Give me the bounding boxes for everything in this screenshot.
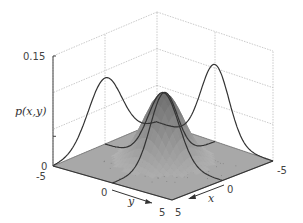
- sample-point: [235, 165, 236, 166]
- sample-point: [152, 182, 153, 183]
- sample-point: [176, 177, 177, 178]
- sample-point: [104, 161, 105, 162]
- y-arrowhead-icon: [145, 199, 152, 204]
- sample-point: [218, 161, 219, 162]
- x-arrowhead-icon: [188, 194, 196, 199]
- x-tick-max: 5: [175, 207, 181, 218]
- sample-point: [175, 182, 176, 183]
- sample-point: [111, 163, 112, 164]
- z-axis-label: p(x,y): [15, 105, 47, 118]
- sample-point: [164, 176, 165, 177]
- sample-point: [220, 163, 221, 164]
- sample-point: [207, 178, 208, 179]
- y-tick-mid: 0: [101, 187, 107, 198]
- sample-point: [223, 163, 224, 164]
- sample-point: [208, 171, 209, 172]
- sample-point: [216, 166, 217, 167]
- grid-line-right-wall: [157, 12, 273, 51]
- y-tick-max: 5: [159, 207, 165, 218]
- surface-plot: 0.15 0 p(x,y) -5 0 5 y -5 0 5 x: [0, 0, 303, 223]
- sample-point: [110, 168, 111, 169]
- z-tick-max: 0.15: [23, 51, 45, 62]
- x-tick-mid: 0: [227, 184, 233, 195]
- x-axis-label: x: [208, 192, 215, 205]
- sample-point: [187, 177, 188, 178]
- y-axis-label: y: [127, 195, 135, 208]
- sample-point: [157, 178, 158, 179]
- y-tick-min: -5: [36, 171, 46, 182]
- sample-point: [166, 181, 167, 182]
- sample-point: [221, 175, 222, 176]
- x-tick-min: -5: [277, 165, 287, 176]
- sample-point: [145, 176, 146, 177]
